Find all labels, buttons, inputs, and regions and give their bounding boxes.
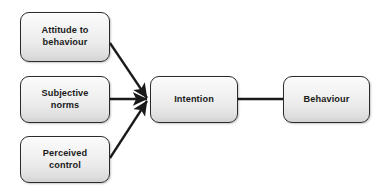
node-intention-label: Intention: [170, 94, 218, 106]
node-perceived-control[interactable]: Perceived control: [20, 136, 110, 183]
node-perceived-label: Perceived control: [39, 148, 91, 172]
node-behaviour[interactable]: Behaviour: [283, 76, 370, 123]
node-intention[interactable]: Intention: [150, 76, 238, 123]
node-subjective-label: Subjective norms: [38, 88, 93, 112]
edge-perceived-to-intention: [110, 101, 147, 158]
node-attitude-label: Attitude to behaviour: [37, 25, 92, 49]
diagram-canvas: Attitude to behaviour Subjective norms P…: [0, 0, 388, 191]
edge-attitude-to-intention: [110, 43, 147, 98]
node-attitude-to-behaviour[interactable]: Attitude to behaviour: [20, 12, 110, 62]
node-behaviour-label: Behaviour: [300, 94, 354, 106]
node-subjective-norms[interactable]: Subjective norms: [20, 76, 110, 123]
